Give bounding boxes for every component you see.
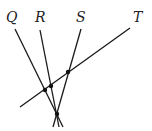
label-s: S: [76, 10, 86, 24]
label-r: R: [35, 10, 46, 24]
line-t: [20, 28, 130, 107]
point-s-t-intersection: [66, 70, 70, 74]
label-q: Q: [6, 10, 17, 24]
point-r-t-intersection: [49, 84, 53, 88]
geometry-diagram: Q R S T: [0, 0, 152, 131]
point-q-t-intersection: [43, 88, 47, 92]
label-t: T: [133, 10, 142, 24]
point-q-r-s-intersection: [55, 112, 59, 116]
